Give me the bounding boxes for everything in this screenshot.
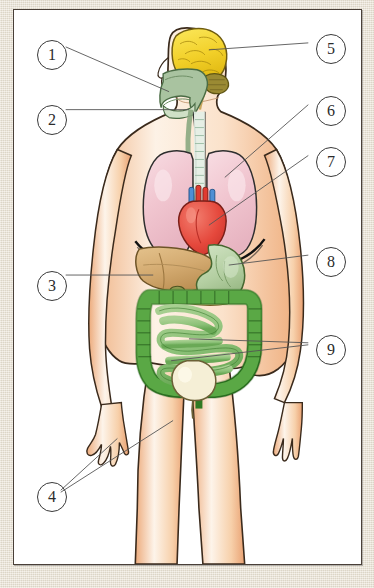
callout-8-number: 8 [327, 254, 335, 270]
callout-1[interactable]: 1 [37, 40, 67, 70]
callout-1-number: 1 [48, 47, 56, 63]
callout-5-number: 5 [327, 41, 335, 57]
callout-7[interactable]: 7 [316, 147, 346, 177]
callout-6-number: 6 [327, 103, 335, 119]
callout-4[interactable]: 4 [37, 482, 67, 512]
callout-8[interactable]: 8 [316, 247, 346, 277]
callout-9[interactable]: 9 [316, 335, 346, 365]
callout-4-number: 4 [48, 489, 56, 505]
callout-3[interactable]: 3 [37, 271, 67, 301]
callout-7-number: 7 [327, 154, 335, 170]
callout-5[interactable]: 5 [316, 34, 346, 64]
callout-2-number: 2 [48, 112, 56, 128]
illustration-plate: 1 2 3 4 5 6 7 8 9 [13, 9, 362, 565]
callout-6[interactable]: 6 [316, 96, 346, 126]
callout-9-number: 9 [327, 342, 335, 358]
callout-3-number: 3 [48, 278, 56, 294]
callout-2[interactable]: 2 [37, 105, 67, 135]
diagram-page: 1 2 3 4 5 6 7 8 9 [0, 0, 374, 588]
